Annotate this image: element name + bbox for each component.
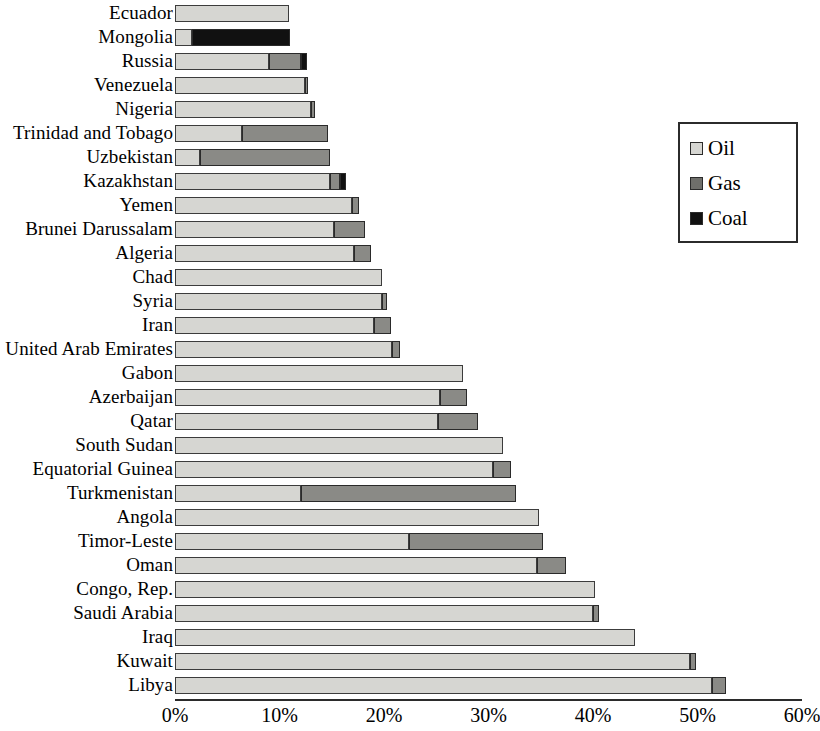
bar-segment-oil[interactable] xyxy=(175,293,382,310)
bar-segment-oil[interactable] xyxy=(175,173,330,190)
legend-swatch-oil-icon xyxy=(690,142,703,155)
bar-segment-gas[interactable] xyxy=(305,77,308,94)
chart-row: Azerbaijan xyxy=(0,386,814,410)
bar-segment-oil[interactable] xyxy=(175,77,305,94)
bar-segment-oil[interactable] xyxy=(175,149,200,166)
stacked-bar[interactable] xyxy=(175,101,315,118)
stacked-bar[interactable] xyxy=(175,533,543,550)
bar-segment-gas[interactable] xyxy=(392,341,399,358)
stacked-bar[interactable] xyxy=(175,173,346,190)
stacked-bar[interactable] xyxy=(175,293,387,310)
stacked-bar[interactable] xyxy=(175,149,330,166)
stacked-bar[interactable] xyxy=(175,629,635,646)
bar-segment-gas[interactable] xyxy=(409,533,543,550)
stacked-bar[interactable] xyxy=(175,317,391,334)
bar-segment-gas[interactable] xyxy=(334,221,365,238)
bar-segment-oil[interactable] xyxy=(175,389,440,406)
bar-segment-gas[interactable] xyxy=(242,125,328,142)
stacked-bar[interactable] xyxy=(175,77,308,94)
bar-segment-oil[interactable] xyxy=(175,53,269,70)
bar-segment-gas[interactable] xyxy=(440,389,466,406)
bar-segment-oil[interactable] xyxy=(175,629,635,646)
category-label: Mongolia xyxy=(98,26,173,50)
bar-segment-oil[interactable] xyxy=(175,245,354,262)
x-tick-label: 10% xyxy=(261,701,298,729)
bar-segment-oil[interactable] xyxy=(175,533,409,550)
bar-segment-oil[interactable] xyxy=(175,437,503,454)
bar-segment-gas[interactable] xyxy=(269,53,301,70)
bar-segment-gas[interactable] xyxy=(200,149,330,166)
bar-segment-oil[interactable] xyxy=(175,461,493,478)
bar-segment-oil[interactable] xyxy=(175,509,539,526)
bar-segment-gas[interactable] xyxy=(374,317,392,334)
x-tick-label: 20% xyxy=(366,701,403,729)
bar-segment-oil[interactable] xyxy=(175,101,311,118)
bar-segment-gas[interactable] xyxy=(537,557,566,574)
stacked-bar[interactable] xyxy=(175,221,365,238)
stacked-bar[interactable] xyxy=(175,653,696,670)
bar-segment-gas[interactable] xyxy=(330,173,340,190)
x-axis-tick-labels: 0%10%20%30%40%50%60% xyxy=(0,701,814,731)
category-label: Trinidad and Tobago xyxy=(13,122,173,146)
bar-segment-gas[interactable] xyxy=(352,197,359,214)
category-label: Ecuador xyxy=(109,2,173,26)
bar-segment-coal[interactable] xyxy=(340,173,346,190)
x-tick-label: 40% xyxy=(575,701,612,729)
bar-segment-oil[interactable] xyxy=(175,269,382,286)
stacked-bar[interactable] xyxy=(175,677,726,694)
stacked-bar[interactable] xyxy=(175,557,566,574)
category-label: Venezuela xyxy=(94,74,173,98)
x-tick-label: 60% xyxy=(784,701,820,729)
stacked-bar[interactable] xyxy=(175,365,463,382)
stacked-bar[interactable] xyxy=(175,437,503,454)
stacked-bar[interactable] xyxy=(175,341,400,358)
bar-segment-oil[interactable] xyxy=(175,365,463,382)
bar-segment-gas[interactable] xyxy=(354,245,372,262)
stacked-bar[interactable] xyxy=(175,605,599,622)
bar-segment-oil[interactable] xyxy=(175,125,242,142)
bar-segment-gas[interactable] xyxy=(311,101,315,118)
stacked-bar[interactable] xyxy=(175,197,359,214)
stacked-bar[interactable] xyxy=(175,485,516,502)
stacked-bar[interactable] xyxy=(175,53,307,70)
legend-item-gas: Gas xyxy=(690,166,796,201)
category-label: Timor-Leste xyxy=(78,530,173,554)
bar-segment-gas[interactable] xyxy=(382,293,387,310)
bar-segment-oil[interactable] xyxy=(175,413,438,430)
category-label: Iraq xyxy=(142,626,173,650)
bar-segment-oil[interactable] xyxy=(175,557,537,574)
stacked-bar[interactable] xyxy=(175,413,478,430)
stacked-bar[interactable] xyxy=(175,245,371,262)
bar-segment-oil[interactable] xyxy=(175,677,712,694)
bar-segment-gas[interactable] xyxy=(438,413,478,430)
bar-segment-oil[interactable] xyxy=(175,5,289,22)
stacked-bar[interactable] xyxy=(175,29,290,46)
bar-segment-oil[interactable] xyxy=(175,485,301,502)
bar-segment-gas[interactable] xyxy=(712,677,726,694)
bar-segment-gas[interactable] xyxy=(493,461,512,478)
stacked-bar[interactable] xyxy=(175,125,328,142)
stacked-bar[interactable] xyxy=(175,581,595,598)
chart-row: Angola xyxy=(0,506,814,530)
bar-segment-oil[interactable] xyxy=(175,197,352,214)
bar-segment-oil[interactable] xyxy=(175,317,374,334)
bar-segment-oil[interactable] xyxy=(175,653,690,670)
stacked-bar[interactable] xyxy=(175,509,539,526)
bar-segment-oil[interactable] xyxy=(175,221,334,238)
bar-segment-coal[interactable] xyxy=(192,29,290,46)
bar-segment-oil[interactable] xyxy=(175,605,593,622)
stacked-bar[interactable] xyxy=(175,389,467,406)
bar-segment-oil[interactable] xyxy=(175,29,192,46)
stacked-bar[interactable] xyxy=(175,5,289,22)
legend-label-oil: Oil xyxy=(708,138,735,159)
bar-segment-coal[interactable] xyxy=(301,53,306,70)
bar-segment-oil[interactable] xyxy=(175,581,595,598)
bar-segment-gas[interactable] xyxy=(690,653,696,670)
bar-segment-gas[interactable] xyxy=(301,485,515,502)
category-label: Libya xyxy=(128,674,173,698)
stacked-bar[interactable] xyxy=(175,461,511,478)
chart-row: Gabon xyxy=(0,362,814,386)
stacked-bar[interactable] xyxy=(175,269,382,286)
bar-segment-gas[interactable] xyxy=(593,605,599,622)
bar-segment-oil[interactable] xyxy=(175,341,392,358)
